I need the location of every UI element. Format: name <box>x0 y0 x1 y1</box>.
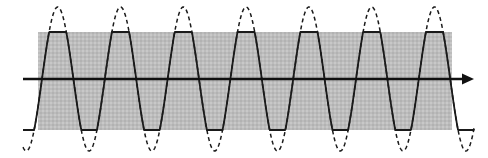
clipped-sine-figure <box>0 0 488 158</box>
figure-root <box>0 0 488 158</box>
